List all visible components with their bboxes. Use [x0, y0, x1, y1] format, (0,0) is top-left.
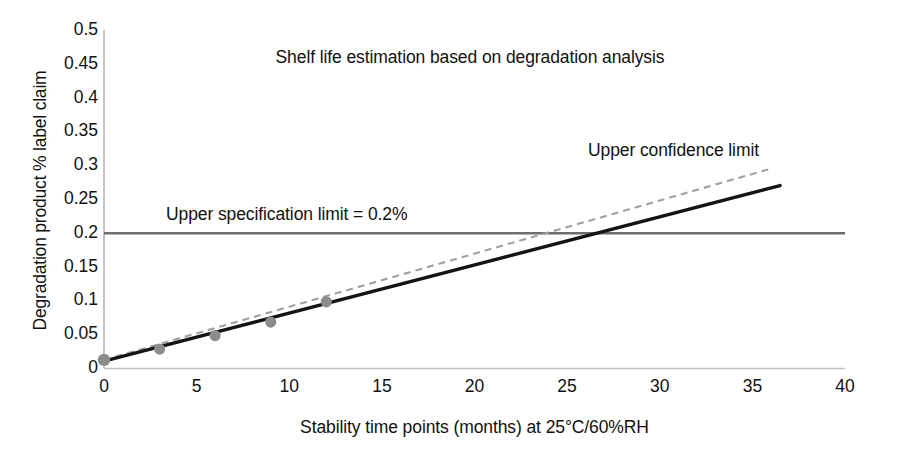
data-point [154, 344, 165, 355]
y-tick-label: 0.5 [34, 21, 98, 39]
y-tick-label: 0.25 [34, 190, 98, 208]
y-tick-label: 0.35 [34, 123, 98, 141]
x-tick-label: 15 [352, 378, 412, 396]
x-tick-label: 35 [722, 378, 782, 396]
y-tick-label: 0.45 [34, 55, 98, 73]
y-tick-label: 0.05 [34, 325, 98, 343]
data-point [210, 330, 221, 341]
upper-confidence-limit-line [104, 169, 771, 360]
x-tick-label: 20 [445, 378, 505, 396]
upper-confidence-limit-label: Upper confidence limit [588, 140, 759, 161]
y-tick-label: 0.2 [34, 224, 98, 242]
y-tick-label: 0.3 [34, 156, 98, 174]
y-tick-label: 0.15 [34, 258, 98, 276]
x-tick-label: 30 [630, 378, 690, 396]
data-point [321, 296, 332, 307]
x-tick-label: 40 [815, 378, 875, 396]
data-point [98, 354, 110, 366]
upper-specification-limit-label: Upper specification limit = 0.2% [166, 204, 407, 225]
x-tick-label: 25 [537, 378, 597, 396]
y-tick-label: 0 [34, 359, 98, 377]
x-tick-label: 0 [74, 378, 134, 396]
x-tick-label: 5 [167, 378, 227, 396]
x-axis-title: Stability time points (months) at 25°C/6… [104, 417, 845, 438]
y-tick-label: 0.1 [34, 292, 98, 310]
chart-figure: Degradation product % label claim 0 0.05… [0, 0, 907, 460]
data-point-markers [98, 296, 332, 366]
y-tick-label: 0.4 [34, 89, 98, 107]
data-point [265, 317, 276, 328]
x-tick-label: 10 [259, 378, 319, 396]
chart-title: Shelf life estimation based on degradati… [200, 47, 740, 68]
